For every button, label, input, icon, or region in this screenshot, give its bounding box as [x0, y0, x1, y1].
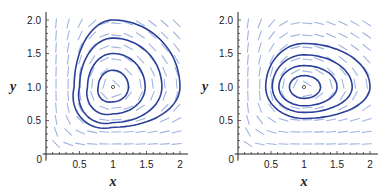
y-axis-label: y [200, 79, 209, 94]
origin-label: 0 [228, 154, 234, 165]
x-axis-label: x [300, 174, 308, 189]
y-tick-label: 1.5 [27, 48, 41, 59]
equilibrium-point [111, 85, 114, 88]
y-tick-label: 2.0 [219, 15, 233, 26]
axes [43, 12, 188, 161]
figure: 0.50.511.01.51.522.00xy 0.50.511.01.51.5… [0, 0, 391, 193]
phase-plot-left: 0.50.511.01.51.522.00xy [8, 12, 188, 189]
x-tick-label: 0.5 [73, 159, 87, 170]
y-tick-label: 1.5 [219, 48, 233, 59]
y-tick-label: 1.0 [27, 82, 41, 93]
x-tick-label: 2 [177, 159, 183, 170]
y-tick-label: 0.5 [219, 115, 233, 126]
y-axis-label: y [8, 79, 17, 94]
equilibrium-point [302, 85, 305, 88]
x-tick-label: 1 [301, 159, 307, 170]
x-tick-label: 1.5 [330, 159, 344, 170]
y-tick-label: 1.0 [219, 82, 233, 93]
x-tick-label: 0.5 [264, 159, 278, 170]
x-tick-label: 1 [110, 159, 116, 170]
y-tick-label: 2.0 [27, 15, 41, 26]
orbits [73, 20, 180, 128]
phase-plot-right: 0.50.511.01.51.522.00xy [200, 12, 378, 189]
x-tick-label: 2 [367, 159, 373, 170]
axes [235, 12, 378, 161]
y-tick-label: 0.5 [27, 115, 41, 126]
x-tick-label: 1.5 [140, 159, 154, 170]
origin-label: 0 [36, 154, 42, 165]
x-axis-label: x [109, 174, 117, 189]
